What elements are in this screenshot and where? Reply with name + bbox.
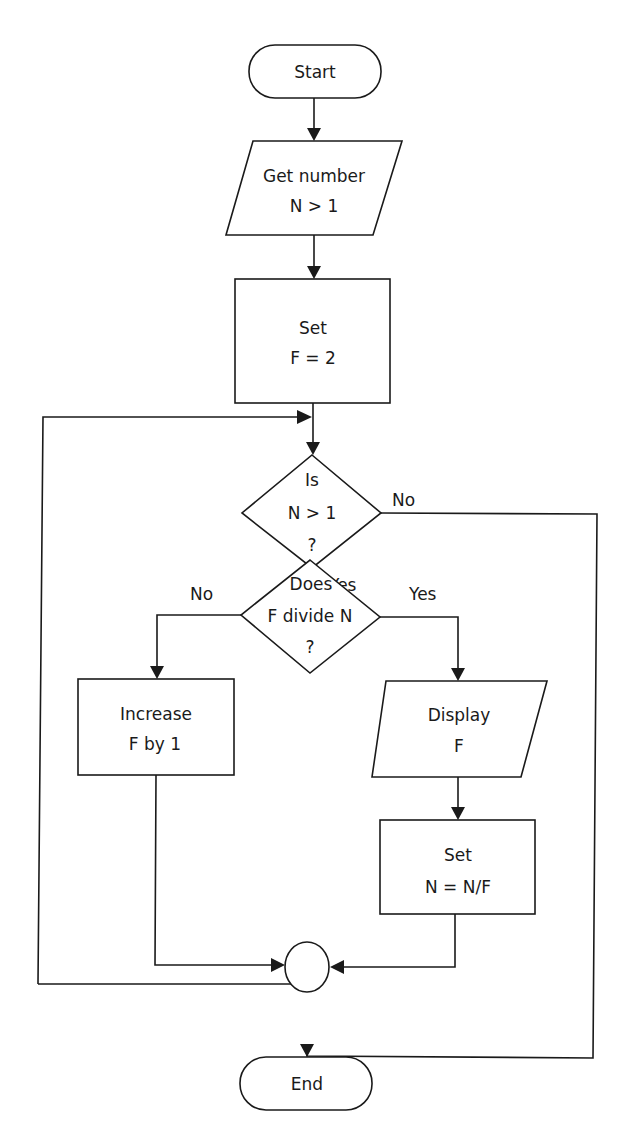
svg-text:F by 1: F by 1 <box>129 734 181 754</box>
svg-text:F: F <box>454 736 464 756</box>
svg-text:End: End <box>291 1074 323 1094</box>
start-terminal: Start <box>249 45 381 98</box>
update-process-box: Set N = N/F <box>380 820 535 914</box>
svg-text:Display: Display <box>428 705 491 725</box>
svg-text:?: ? <box>305 637 314 657</box>
end-terminal: End <box>240 1057 372 1110</box>
init-process-box: Set F = 2 <box>235 279 390 403</box>
input-parallelogram: Get number N > 1 <box>226 141 402 235</box>
svg-text:F divide N: F divide N <box>268 606 353 626</box>
svg-text:F = 2: F = 2 <box>290 348 336 368</box>
increase-process-box: Increase F by 1 <box>78 679 234 775</box>
display-output-parallelogram: Display F <box>372 681 547 777</box>
flowchart-canvas: Start Get number N > 1 Set F = 2 Is N > … <box>0 0 627 1142</box>
svg-text:N > 1: N > 1 <box>290 196 339 216</box>
svg-text:Increase: Increase <box>120 704 192 724</box>
svg-text:?: ? <box>307 535 316 555</box>
svg-text:Is: Is <box>305 470 319 490</box>
svg-text:Set: Set <box>444 845 472 865</box>
svg-text:Set: Set <box>299 318 327 338</box>
decision1-no-label: No <box>392 490 415 510</box>
svg-text:Get number: Get number <box>263 166 365 186</box>
decision2-yes-label: Yes <box>408 584 437 604</box>
svg-text:Start: Start <box>294 62 336 82</box>
connector-circle <box>285 942 329 992</box>
svg-text:N > 1: N > 1 <box>288 503 337 523</box>
svg-text:N = N/F: N = N/F <box>425 877 491 897</box>
decision2-no-label: No <box>190 584 213 604</box>
svg-text:Does: Does <box>290 574 333 594</box>
